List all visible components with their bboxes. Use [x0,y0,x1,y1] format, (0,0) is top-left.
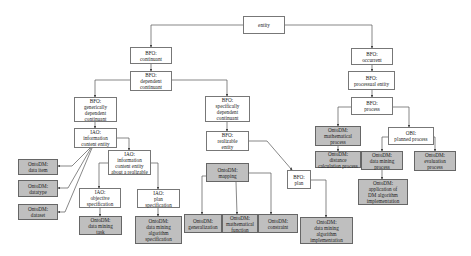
edge-planned_process-to-eval_process [434,137,435,151]
node-math-process: OntoDM: mathematical process [315,126,361,146]
node-realizable: BFO: realizable entity [206,131,249,151]
node-obj-spec: IAO: objective specification [79,188,121,208]
node-dm-alg-impl: OntoDM: data mining algorithm implementa… [300,217,353,244]
node-dist-calc: OntoDM: distance calculation process [315,151,361,168]
node-app-dm-alg: OntoDM: application of DM algorithm impl… [358,179,408,205]
node-planned-process: OBI: planned process [388,127,434,145]
node-eval-process: OntoDM: evaluation process [414,151,456,171]
edge-ice_real-to-plan_spec [151,163,158,189]
node-data-item: OntoDM: data item [18,159,58,175]
node-gen-dep: BFO: generically dependent continuant [74,97,117,122]
edge-plan-to-dm_alg_impl [311,180,326,217]
edge-mapping-to-constraint [249,173,271,214]
node-generalization: OntoDM: generalization [184,214,222,233]
edge-ice_real-to-obj_spec [99,163,108,188]
edge-ice-to-datatype [58,148,91,188]
node-ice-real: IAO: information content entity about a … [108,150,151,175]
node-dm-alg-spec: OntoDM: data mining algorithm specificat… [135,216,182,244]
node-dep-cont: BFO: dependent continuant [130,71,172,91]
node-processual: BFO: processual entity [348,71,395,90]
edge-mapping-to-math_func [236,182,237,214]
node-constraint: OntoDM: constraint [258,214,298,233]
edge-dep_cont-to-gen_dep [95,80,130,97]
node-dm-process: OntoDM: data mining process [361,151,403,170]
node-ice: IAO: information content entity [74,128,117,148]
edge-process-to-planned_process [393,107,409,127]
node-entity: entity [243,16,285,34]
node-occurrent: BFO: occurrent [351,48,393,65]
edge-ice-to-ice_real [117,138,129,150]
node-plan-spec: IAO: plan specification [137,189,180,208]
node-process: BFO: process [351,97,393,115]
node-plan: BFO: plan [287,170,311,189]
node-math-func: OntoDM: mathematical function [222,214,258,233]
node-continuant: BFO: continuant [130,47,172,64]
ontology-diagram: entityBFO: continuantBFO: dependent cont… [0,0,471,256]
node-dataset: OntoDM: dataset [18,204,58,220]
edge-dep_cont-to-spec_dep [172,80,227,96]
node-dm-task: OntoDM: data mining task [79,216,122,235]
edge-entity-to-continuant [151,25,243,47]
node-spec-dep: BFO: specifically dependent continuant [205,96,250,122]
node-mapping: OntoDM: mapping [206,163,249,182]
edge-realizable-to-plan [249,141,292,170]
edge-entity-to-occurrent [285,25,372,48]
edge-process-to-math_process [338,107,351,126]
node-datatype: OntoDM: datatype [18,180,58,197]
